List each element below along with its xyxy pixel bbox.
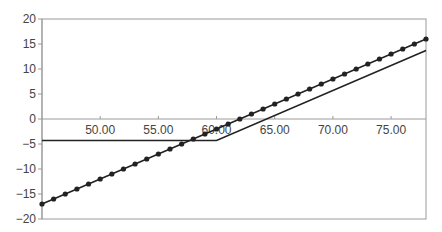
series-layer: [39, 36, 428, 206]
data-point-marker: [74, 186, 79, 191]
data-point-marker: [249, 111, 254, 116]
y-axis: 20151050−5−10−15−20: [16, 12, 42, 226]
data-point-marker: [86, 181, 91, 186]
data-point-marker: [423, 36, 428, 41]
data-point-marker: [377, 56, 382, 61]
data-point-marker: [342, 71, 347, 76]
data-point-marker: [214, 126, 219, 131]
x-tick-label: 50.00: [85, 123, 115, 137]
data-point-marker: [121, 166, 126, 171]
data-point-marker: [132, 161, 137, 166]
data-point-marker: [284, 96, 289, 101]
data-point-marker: [226, 121, 231, 126]
data-point-marker: [295, 91, 300, 96]
y-tick-label: −10: [16, 162, 37, 176]
data-point-marker: [307, 86, 312, 91]
y-tick-label: 15: [23, 37, 37, 51]
data-point-marker: [156, 151, 161, 156]
data-point-marker: [272, 101, 277, 106]
x-tick-label: 70.00: [318, 123, 348, 137]
data-point-marker: [365, 61, 370, 66]
x-tick-label: 75.00: [376, 123, 406, 137]
data-point-marker: [98, 176, 103, 181]
series-line-with-markers: [39, 36, 428, 206]
data-point-marker: [330, 76, 335, 81]
data-point-marker: [388, 51, 393, 56]
data-point-marker: [144, 156, 149, 161]
data-point-marker: [39, 201, 44, 206]
data-point-marker: [260, 106, 265, 111]
data-point-marker: [319, 81, 324, 86]
data-point-marker: [354, 66, 359, 71]
data-point-marker: [63, 191, 68, 196]
data-point-marker: [202, 131, 207, 136]
x-tick-label: 55.00: [143, 123, 173, 137]
data-point-marker: [412, 41, 417, 46]
data-point-marker: [109, 171, 114, 176]
y-tick-label: 5: [29, 87, 36, 101]
data-point-marker: [179, 141, 184, 146]
y-tick-label: 10: [23, 62, 37, 76]
data-point-marker: [400, 46, 405, 51]
data-point-marker: [237, 116, 242, 121]
y-tick-label: 0: [29, 112, 36, 126]
x-tick-label: 65.00: [260, 123, 290, 137]
data-point-marker: [167, 146, 172, 151]
y-tick-label: −5: [22, 137, 36, 151]
y-tick-label: −15: [16, 187, 37, 201]
y-tick-label: 20: [23, 12, 37, 26]
payoff-chart: 20151050−5−10−15−20 50.0055.0060.0065.00…: [0, 0, 442, 232]
y-tick-label: −20: [16, 212, 37, 226]
data-point-marker: [51, 196, 56, 201]
